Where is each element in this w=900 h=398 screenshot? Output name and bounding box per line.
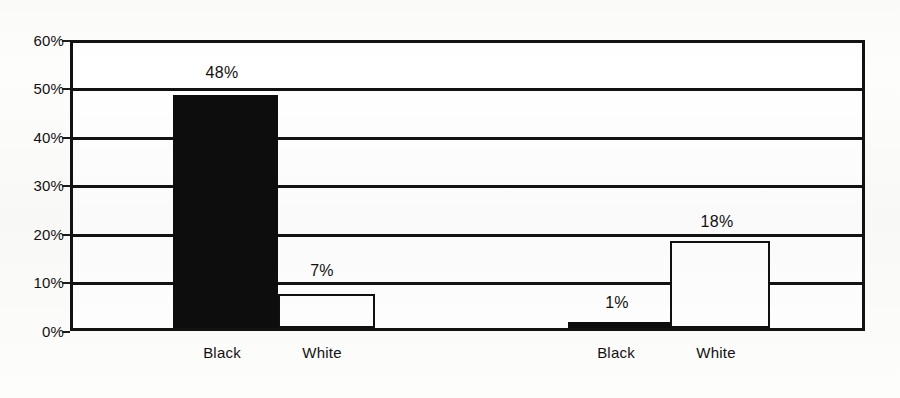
x-category-label-group2-black: Black <box>597 344 635 361</box>
bar-white-7[interactable] <box>278 294 375 328</box>
y-tick-mark-20 <box>62 234 70 236</box>
y-tick-label-60: 60% <box>6 33 64 48</box>
bar-black-48[interactable] <box>173 95 278 328</box>
x-category-label-group1-white: White <box>302 344 341 361</box>
plot-area <box>70 40 865 331</box>
bar-black-1[interactable] <box>568 322 671 328</box>
y-tick-label-50: 50% <box>6 81 64 96</box>
data-label-bar-black-48: 48% <box>206 64 239 82</box>
y-tick-label-30: 30% <box>6 178 64 193</box>
y-tick-label-40: 40% <box>6 130 64 145</box>
data-label-bar-white-18: 18% <box>701 213 734 231</box>
y-tick-mark-60 <box>62 40 70 42</box>
y-tick-mark-50 <box>62 88 70 90</box>
data-label-bar-black-1: 1% <box>605 294 629 312</box>
y-tick-mark-30 <box>62 185 70 187</box>
data-label-bar-white-7: 7% <box>310 262 334 280</box>
y-tick-mark-40 <box>62 137 70 139</box>
y-tick-label-20: 20% <box>6 227 64 242</box>
bar-white-18[interactable] <box>670 241 770 328</box>
y-tick-mark-10 <box>62 282 70 284</box>
x-category-label-group2-white: White <box>696 344 735 361</box>
y-tick-label-0: 0% <box>6 324 64 339</box>
y-axis: 60% 50% 40% 30% 20% 10% 0% <box>0 0 64 398</box>
y-tick-mark-0 <box>62 331 70 333</box>
x-category-label-group1-black: Black <box>203 344 241 361</box>
y-tick-label-10: 10% <box>6 275 64 290</box>
bar-chart-figure: 60% 50% 40% 30% 20% 10% 0% 48% 7% 1% 18%… <box>0 0 900 398</box>
gridline-50 <box>73 88 862 91</box>
